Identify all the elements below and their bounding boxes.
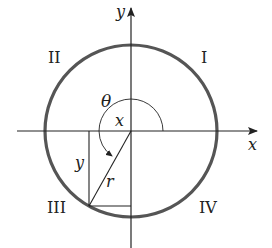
quadrant-IV-label: IV <box>199 198 217 217</box>
quadrant-II-label: II <box>48 48 61 67</box>
theta-label: θ <box>101 91 111 111</box>
radius-line <box>89 131 131 206</box>
x-segment-label: x <box>115 111 124 130</box>
y-segment-label: y <box>74 153 85 172</box>
r-segment-label: r <box>106 172 115 191</box>
y-axis-label: y <box>115 2 126 21</box>
quadrant-I-label: I <box>201 48 207 67</box>
diagram-canvas: y x I II III IV θ x y r <box>0 0 272 248</box>
x-axis-label: x <box>248 135 257 154</box>
quadrant-III-label: III <box>47 198 66 217</box>
